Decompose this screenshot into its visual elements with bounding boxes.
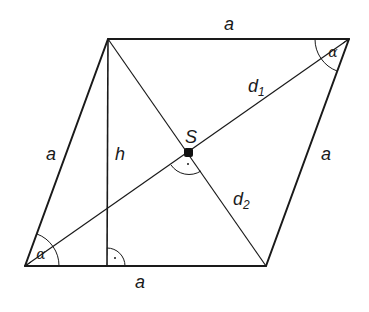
rhombus-diagram: a a h S a a d1 d2 α α <box>0 0 369 312</box>
label-angle-top-right: α <box>328 44 338 60</box>
label-center-s: S <box>185 127 197 147</box>
label-diagonal-1: d1 <box>248 76 265 99</box>
label-diagonal-2: d2 <box>233 189 250 212</box>
label-height: h <box>115 144 125 164</box>
right-angle-dot-height <box>114 257 116 259</box>
label-side-left: a <box>46 144 56 164</box>
side-left <box>25 39 108 266</box>
label-side-right: a <box>321 144 331 164</box>
right-angle-dot-center <box>187 163 189 165</box>
side-right <box>266 39 349 266</box>
height-line <box>107 39 108 266</box>
label-angle-bottom-left: α <box>36 246 46 262</box>
right-angle-arc-height <box>107 248 125 266</box>
center-point-s <box>184 148 193 157</box>
label-side-bottom: a <box>135 272 145 292</box>
label-side-top: a <box>224 14 234 34</box>
